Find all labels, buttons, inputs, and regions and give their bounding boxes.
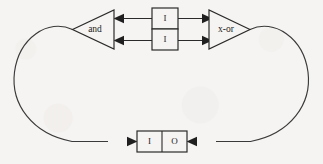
left-feedback-loop-wire xyxy=(14,26,108,141)
upper-and-arrowhead-icon xyxy=(114,14,125,23)
diagram-canvas: and x-or I I I O xyxy=(0,0,323,164)
bottom-io-box-input-label: I xyxy=(148,136,151,146)
and-gate-label: and xyxy=(88,24,102,34)
logic-circuit-diagram: and x-or I I I O xyxy=(0,0,323,164)
bottom-right-arrowhead-icon xyxy=(187,137,198,146)
bottom-io-box-output-label: O xyxy=(171,136,178,146)
right-feedback-loop-wire xyxy=(216,26,308,141)
xor-gate-label: x-or xyxy=(218,24,235,34)
top-upper-io-box-label: I xyxy=(164,13,167,23)
lower-and-arrowhead-icon xyxy=(114,36,125,45)
bottom-left-arrowhead-icon xyxy=(127,137,138,146)
top-lower-io-box-label: I xyxy=(164,34,167,44)
